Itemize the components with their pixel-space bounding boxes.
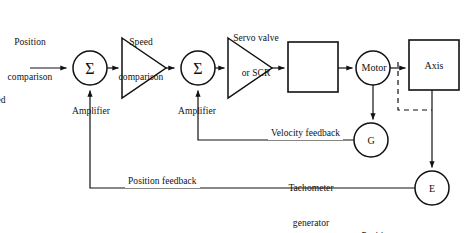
label-tachometer-line1: Tachometer [251, 183, 371, 195]
label-amplifier-1: Amplifier [41, 106, 141, 118]
label-position-feedback: Position feedback [125, 176, 200, 188]
sigma-symbol-speed-comparison: Σ [193, 61, 202, 77]
label-speed-comparison-line1: Speed [81, 37, 201, 49]
label-tachometer-symbol: G [367, 136, 374, 146]
sigma-symbol-position-comparison: Σ [85, 61, 94, 77]
block-diagram-figure: Position comparison Speed comparison Ser… [0, 0, 472, 233]
label-motor: Motor [362, 63, 387, 73]
label-position-comparison-line1: Position [0, 37, 90, 49]
label-commanded-input-line1: Commanded [0, 95, 36, 107]
label-commanded-input: Commanded position from controller [0, 72, 36, 233]
label-commanded-input-line3: from [0, 164, 36, 176]
label-position-measuring-symbol: E [429, 184, 435, 194]
label-speed-comparison: Speed comparison [81, 14, 201, 106]
label-position-measuring: Position- measuring [324, 208, 434, 233]
label-speed-comparison-line2: comparison [81, 72, 201, 84]
label-velocity-feedback: Velocity feedback [268, 128, 343, 140]
label-commanded-input-line4: controller [0, 199, 36, 211]
label-axis: Axis [425, 61, 444, 71]
label-servo-valve: Servo valve or SCR [196, 10, 316, 102]
label-commanded-input-line2: position [0, 130, 36, 142]
label-amplifier-2: Amplifier [147, 106, 247, 118]
label-servo-valve-line1: Servo valve [196, 33, 316, 45]
label-servo-valve-line2: or SCR [196, 68, 316, 80]
label-position-measuring-line1: Position- [324, 231, 434, 233]
